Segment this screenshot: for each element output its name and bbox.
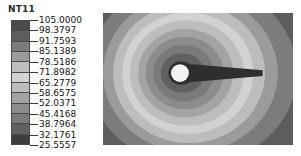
legend-tick <box>30 62 38 63</box>
legend-swatch <box>12 61 29 71</box>
legend-swatch <box>12 72 29 82</box>
legend-swatch <box>12 103 29 113</box>
legend-label-value: 65.2779 <box>39 79 76 88</box>
legend-tick <box>30 30 38 31</box>
legend-label-value: 78.5186 <box>39 58 76 67</box>
legend-tick <box>30 83 38 84</box>
legend-swatch <box>12 113 29 123</box>
contour-plot-screenshot: NT11 105.000098.379791.759385.138978.518… <box>0 0 301 156</box>
source-circle <box>171 64 189 82</box>
legend-swatch <box>12 41 29 51</box>
legend-swatch <box>12 21 29 30</box>
legend-tick <box>30 124 38 125</box>
legend-tick <box>30 114 38 115</box>
legend-swatch <box>12 123 29 133</box>
legend-tick <box>30 103 38 104</box>
legend-tick <box>30 51 38 52</box>
legend-label-value: 91.7593 <box>39 37 76 46</box>
legend-swatch <box>12 92 29 102</box>
legend-tick <box>30 145 38 146</box>
contour-plot-viewport <box>103 13 293 145</box>
legend-label-value: 85.1389 <box>39 47 76 56</box>
legend-label-value: 38.7964 <box>39 120 76 129</box>
legend-tick-marks <box>30 20 38 145</box>
legend-tick <box>30 20 38 21</box>
legend-label-value: 45.4168 <box>39 110 76 119</box>
legend-tick <box>30 135 38 136</box>
legend-labels: 105.000098.379791.759385.138978.518671.8… <box>39 20 99 145</box>
legend-title: NT11 <box>8 4 35 14</box>
legend-swatch <box>12 51 29 61</box>
legend-swatch <box>12 30 29 40</box>
legend-color-bar <box>11 20 30 145</box>
legend-tick <box>30 41 38 42</box>
legend-swatch <box>12 82 29 92</box>
legend-label-value: 71.8982 <box>39 68 76 77</box>
legend-label-value: 32.1761 <box>39 131 76 140</box>
legend-label-value: 58.6575 <box>39 89 76 98</box>
legend-tick <box>30 93 38 94</box>
legend-label-value: 52.0371 <box>39 99 76 108</box>
legend-label-value: 98.3797 <box>39 26 76 35</box>
legend-panel: NT11 105.000098.379791.759385.138978.518… <box>0 0 100 156</box>
legend-tick <box>30 72 38 73</box>
legend-label-value: 25.5557 <box>39 141 76 150</box>
legend-label-value: 105.0000 <box>39 16 82 25</box>
contour-plot-canvas <box>103 13 293 145</box>
legend-swatch <box>12 134 29 144</box>
